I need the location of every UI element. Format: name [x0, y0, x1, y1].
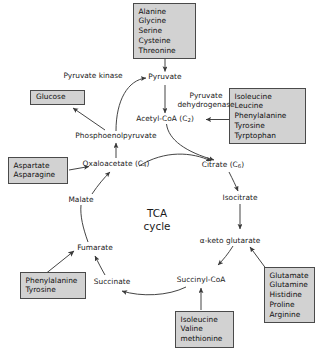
enzyme-text: Pyruvate kinase — [63, 71, 122, 80]
metabolite-isocitrate: Isocitrate — [222, 194, 257, 202]
pyruvate-dehydrogenase-label: Pyruvate dehydrogenase — [177, 92, 234, 109]
aa-label: methionine — [181, 334, 230, 344]
arrow-pep-to-glucose — [73, 108, 105, 130]
metabolite-label: Phosphoenolpyruvate — [75, 131, 156, 140]
acetyl-coa-amino-acids-box[interactable]: Isoleucine Leucine Phenylalanine Tyrosin… — [229, 88, 306, 144]
metabolite-succinate: Succinate — [94, 278, 131, 286]
enzyme-text-line1: Pyruvate — [190, 91, 223, 100]
cycle-center-label: TCA cycle — [144, 207, 171, 232]
metabolite-label-tail: ) — [191, 114, 194, 123]
aa-label: Serine — [139, 26, 192, 36]
enzyme-text-line2: dehydrogenase — [177, 100, 234, 109]
arrow-cycle-citrate-to-isocitrate — [229, 172, 238, 191]
cycle-label-line1: TCA — [147, 207, 167, 219]
pyruvate-kinase-label: Pyruvate kinase — [63, 72, 122, 81]
aa-label: Alanine — [139, 7, 192, 17]
oxaloacetate-amino-acids-box[interactable]: Aspartate Asparagine — [8, 157, 68, 184]
pyruvate-amino-acids-box[interactable]: Alanine Glycine Serine Cysteine Threonin… — [133, 3, 196, 59]
succinyl-coa-amino-acids-box[interactable]: Isoleucine Valine methionine — [175, 311, 234, 348]
fumarate-amino-acids-box[interactable]: Phenylalanine Tyrosine — [20, 272, 86, 299]
aa-label: Cysteine — [139, 36, 192, 46]
arrow-cycle-malate-to-oxaloacetate — [92, 172, 110, 194]
aa-label: Glutamine — [270, 280, 311, 290]
aa-label: Histidine — [270, 290, 311, 300]
metabolite-oxaloacetate: Oxaloacetate (C4) — [83, 160, 150, 169]
metabolite-malate: Malate — [68, 196, 93, 204]
metabolite-pyruvate: Pyruvate — [148, 73, 181, 81]
aa-label: Arginine — [270, 310, 311, 320]
tca-cycle-diagram: Alanine Glycine Serine Cysteine Threonin… — [0, 0, 315, 354]
arrow-cycle-fumarate-to-malate — [81, 205, 88, 242]
metabolite-acetyl-coa: Acetyl-CoA (C2) — [136, 115, 194, 124]
arrow-acetylcoa-to-citrate — [167, 124, 215, 160]
aa-label: Valine — [181, 324, 230, 334]
arrow-cycle-succinate-to-fumarate — [95, 256, 105, 275]
metabolite-label: Succinyl-CoA — [177, 275, 226, 284]
aa-label: Isoleucine — [181, 315, 230, 325]
metabolite-label: Fumarate — [77, 243, 113, 252]
metabolite-phosphoenolpyruvate: Phosphoenolpyruvate — [75, 132, 156, 140]
metabolite-label: α-keto glutarate — [200, 236, 261, 245]
alpha-keto-glutarate-amino-acids-box[interactable]: Glutamate Glutamine Histidine Proline Ar… — [264, 267, 315, 323]
aa-label: Tyrptophan — [235, 131, 302, 141]
aa-label: Glutamate — [270, 271, 311, 281]
aa-label: Tyrosine — [26, 285, 82, 295]
metabolite-succinyl-coa: Succinyl-CoA — [177, 276, 226, 284]
metabolite-label-tail: ) — [241, 160, 244, 169]
aa-label: Isoleucine — [235, 92, 302, 102]
aa-label: Aspartate — [14, 161, 64, 171]
aa-label: Phenylalanine — [235, 111, 302, 121]
metabolite-label: Citrate (C — [202, 160, 238, 169]
metabolite-label: Malate — [68, 195, 93, 204]
aa-label: Asparagine — [14, 170, 64, 180]
metabolite-label: Isocitrate — [222, 193, 257, 202]
arrow-cycle-akg-to-succinylcoa — [218, 246, 233, 265]
glucose-label: Glucose — [36, 93, 79, 102]
arrow-cycle-succinylcoa-to-succinate — [122, 287, 186, 295]
aa-label: Glycine — [139, 16, 192, 26]
metabolite-label: Pyruvate — [148, 72, 181, 81]
aa-label: Leucine — [235, 101, 302, 111]
arrow-cycle-oxaloacetate-to-citrate — [139, 154, 211, 166]
aa-label: Tyrosine — [235, 121, 302, 131]
metabolite-label: Succinate — [94, 277, 131, 286]
aa-label: Phenylalanine — [26, 276, 82, 286]
metabolite-label: Acetyl-CoA (C — [136, 114, 187, 123]
metabolite-alpha-keto-glutarate: α-keto glutarate — [200, 237, 261, 245]
metabolite-label: Oxaloacetate (C — [83, 159, 143, 168]
cycle-label-line2: cycle — [144, 220, 171, 232]
aa-label: Threonine — [139, 46, 192, 56]
aa-label: Proline — [270, 300, 311, 310]
glucose-box[interactable]: Glucose — [30, 90, 85, 105]
metabolite-fumarate: Fumarate — [77, 244, 113, 252]
metabolite-citrate: Citrate (C6) — [202, 161, 244, 170]
metabolite-label-tail: ) — [146, 159, 149, 168]
